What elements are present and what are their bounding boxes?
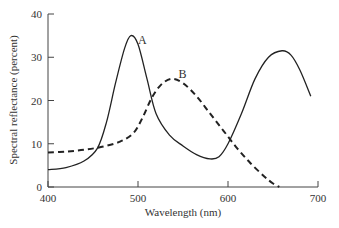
tick-labels: 010203040400500600700 (31, 8, 327, 204)
x-tick-label: 500 (130, 192, 147, 204)
x-tick-label: 700 (310, 192, 327, 204)
curve-a (48, 35, 311, 169)
curve-b (48, 79, 279, 187)
y-tick-label: 20 (31, 95, 43, 107)
curves (48, 35, 311, 187)
x-axis-label: Wavelength (nm) (145, 206, 222, 219)
reflectance-chart: 010203040400500600700 AB Wavelength (nm)… (0, 0, 339, 228)
x-tick-label: 600 (220, 192, 237, 204)
y-tick-label: 40 (31, 8, 43, 20)
y-tick-label: 30 (31, 51, 43, 63)
curve-label-b: B (179, 67, 187, 81)
y-tick-label: 10 (31, 138, 43, 150)
axes (48, 14, 318, 187)
axis-lines (48, 14, 318, 187)
y-axis-label: Spectral reflectance (percent) (7, 35, 20, 165)
x-tick-label: 400 (40, 192, 57, 204)
curve-label-a: A (138, 33, 147, 47)
